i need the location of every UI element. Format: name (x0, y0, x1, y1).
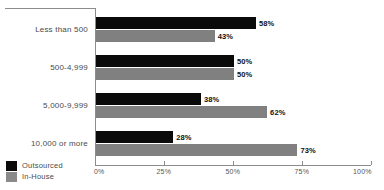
legend-label-outsourced: Outsourced (22, 161, 63, 170)
x-tick-label: 50% (226, 168, 241, 175)
plot-top-rule (5, 8, 96, 9)
x-tick-label: 25% (157, 168, 172, 175)
bar-chart: 0%25%50%75%100% Less than 500500-4,9995,… (0, 0, 384, 190)
category-label: Less than 500 (35, 25, 88, 34)
category-label: 5,000-9,999 (43, 101, 88, 110)
bar-value-label: 38% (204, 95, 219, 104)
x-tick-mark (233, 161, 234, 165)
chart-legend: Outsourced In-House (6, 160, 63, 182)
bar-outsourced (96, 55, 234, 67)
bar-inhouse (96, 144, 297, 156)
legend-item-in-house: In-House (6, 171, 63, 182)
bar-value-label: 58% (259, 19, 274, 28)
x-tick-label: 75% (295, 168, 310, 175)
bar-outsourced (96, 93, 201, 105)
category-label: 10,000 or more (31, 139, 88, 148)
bar-inhouse (96, 68, 234, 80)
legend-label-in-house: In-House (22, 172, 54, 181)
bar-outsourced (96, 17, 256, 29)
bar-value-label: 73% (300, 146, 315, 155)
bar-outsourced (96, 131, 173, 143)
legend-item-outsourced: Outsourced (6, 160, 63, 171)
bar-inhouse (96, 106, 267, 118)
legend-swatch-outsourced (6, 161, 17, 171)
x-tick-mark (302, 161, 303, 165)
bar-value-label: 28% (176, 133, 191, 142)
x-tick-label: 0% (94, 168, 105, 175)
x-tick-mark (95, 161, 96, 165)
bar-value-label: 50% (237, 70, 252, 79)
bar-value-label: 50% (237, 57, 252, 66)
x-tick-mark (371, 161, 372, 165)
bar-value-label: 62% (270, 108, 285, 117)
x-tick-label: 100% (353, 168, 372, 175)
bar-inhouse (96, 30, 215, 42)
legend-swatch-in-house (6, 172, 17, 182)
category-label: 500-4,999 (50, 63, 88, 72)
x-axis-line (95, 165, 371, 166)
x-tick-mark (164, 161, 165, 165)
bar-value-label: 43% (218, 32, 233, 41)
